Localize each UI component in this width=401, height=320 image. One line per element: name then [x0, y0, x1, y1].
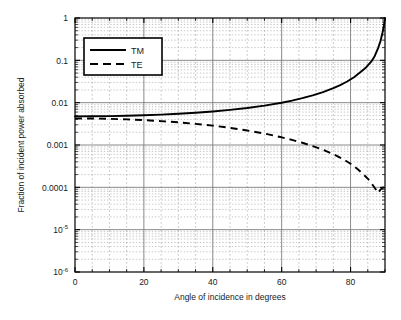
y-axis-title: Fraction of incident power absorbed: [16, 77, 26, 212]
legend-label-te: TE: [131, 60, 143, 70]
legend: TM TE: [84, 38, 162, 75]
x-axis-title: Angle of incidence in degrees: [174, 292, 286, 302]
y-tick-label: 0.01: [51, 98, 68, 108]
x-tick-label: 60: [277, 277, 287, 287]
x-tick-label: 80: [346, 277, 356, 287]
x-tick-label: 40: [208, 277, 218, 287]
x-tick-label: 20: [139, 277, 149, 287]
y-tick-label: 0.1: [56, 56, 68, 66]
y-tick-label: 0.001: [47, 140, 69, 150]
x-tick-label: 0: [73, 277, 78, 287]
y-tick-label: 0.0001: [42, 183, 68, 193]
y-tick-label: 1: [63, 13, 68, 23]
legend-label-tm: TM: [131, 46, 144, 56]
legend-box: [84, 38, 162, 75]
absorption-vs-angle-chart: 10.10.010.0010.000110-510-6 020406080 An…: [0, 0, 401, 320]
